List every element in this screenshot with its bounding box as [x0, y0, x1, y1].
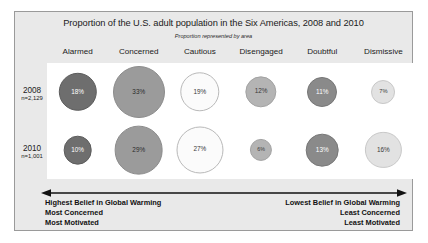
belief-spectrum-arrow-icon [41, 188, 407, 198]
row-label-2010-year: 2010 [17, 144, 47, 153]
chart-subtitle: Proportion represented by area [15, 33, 412, 39]
category-header-cautious: Cautious [184, 47, 216, 56]
annotation-right-line-3: Least Motivated [285, 218, 400, 228]
bubble-value-label: 6% [257, 147, 265, 152]
annotation-right: Lowest Belief in Global WarmingLeast Con… [285, 198, 400, 228]
row-label-2010-n: n=1,001 [17, 153, 47, 160]
row-label-2008-n: n=2,129 [17, 95, 47, 102]
bubble-2010-concerned: 29% [114, 126, 163, 175]
bubble-value-label: 10% [71, 147, 84, 153]
bubble-row-2008: 18%33%19%12%11%7% [47, 63, 414, 121]
bubble-2008-disengaged: 12% [245, 76, 276, 107]
bubble-value-label: 13% [316, 147, 329, 153]
annotation-left-line-3: Most Motivated [45, 218, 161, 228]
category-header-doubtful: Doubtful [307, 47, 337, 56]
annotation-left-line-2: Most Concerned [45, 208, 161, 218]
bubble-2010-cautious: 27% [176, 126, 223, 173]
category-header-alarmed: Alarmed [63, 47, 93, 56]
bubble-2008-doubtful: 11% [307, 77, 337, 107]
chart-title: Proportion of the U.S. adult population … [15, 18, 412, 28]
bubble-row-2010: 10%29%27%6%13%16% [47, 121, 414, 179]
bubble-value-label: 12% [255, 89, 268, 95]
category-header-row: AlarmedConcernedCautiousDisengagedDoubtf… [47, 47, 414, 61]
annotation-right-line-2: Least Concerned [285, 208, 400, 218]
bubble-2008-alarmed: 18% [58, 73, 96, 111]
bubble-value-label: 7% [379, 89, 387, 95]
bubble-2010-alarmed: 10% [63, 136, 92, 165]
bubble-2008-concerned: 33% [113, 66, 165, 118]
bubble-2008-cautious: 19% [180, 72, 219, 111]
category-header-disengaged: Disengaged [239, 47, 282, 56]
bubble-value-label: 19% [194, 89, 207, 95]
bubble-value-label: 29% [132, 147, 145, 153]
annotation-right-line-1: Lowest Belief in Global Warming [285, 198, 400, 208]
row-label-2008: 2008 n=2,129 [17, 86, 47, 102]
row-label-2008-year: 2008 [17, 86, 47, 95]
annotation-left: Highest Belief in Global WarmingMost Con… [45, 198, 161, 228]
bubble-value-label: 33% [132, 89, 145, 95]
bubble-value-label: 16% [377, 147, 390, 153]
bubble-2010-disengaged: 6% [250, 139, 272, 161]
plot-area: 18%33%19%12%11%7% 10%29%27%6%13%16% [47, 63, 414, 179]
category-header-dismissive: Dismissive [364, 47, 403, 56]
bubble-value-label: 27% [194, 147, 207, 153]
bubble-2010-dismissive: 16% [365, 132, 401, 168]
category-header-concerned: Concerned [119, 47, 159, 56]
bubble-2008-dismissive: 7% [371, 80, 395, 104]
bubble-2010-doubtful: 13% [306, 134, 339, 167]
bubble-value-label: 11% [316, 89, 328, 95]
row-label-2010: 2010 n=1,001 [17, 144, 47, 160]
figure-panel: Proportion of the U.S. adult population … [14, 11, 413, 231]
bubble-value-label: 18% [71, 89, 84, 95]
annotation-left-line-1: Highest Belief in Global Warming [45, 198, 161, 208]
